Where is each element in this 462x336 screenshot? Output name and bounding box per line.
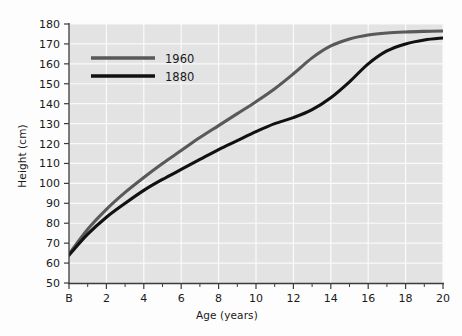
y-tick-label: 50 [46,277,60,290]
y-tick-label: 120 [39,138,60,151]
x-axis-ticks [69,283,443,289]
x-tick-label: 16 [361,292,375,305]
y-tick-label: 110 [39,157,60,170]
y-tick-label: 140 [39,98,60,111]
x-axis-title: Age (years) [196,309,258,321]
x-tick-label: 18 [399,292,413,305]
y-tick-label: 130 [39,118,60,131]
y-tick-label: 150 [39,78,60,91]
y-tick-label: 160 [39,58,60,71]
chart-canvas: 5060708090100110120130140150160170180 B2… [0,0,462,336]
y-axis-tick-labels: 5060708090100110120130140150160170180 [39,18,60,290]
x-tick-label: 20 [436,292,450,305]
x-tick-label: B [65,292,73,305]
y-tick-label: 60 [46,257,60,270]
y-tick-label: 80 [46,217,60,230]
y-tick-label: 180 [39,18,60,31]
y-tick-label: 70 [46,237,60,250]
y-tick-label: 90 [46,197,60,210]
legend-label-1880: 1880 [165,70,194,84]
x-tick-label: 10 [249,292,263,305]
x-tick-label: 8 [215,292,222,305]
x-tick-label: 12 [286,292,300,305]
y-tick-label: 100 [39,177,60,190]
x-axis-tick-labels: B2468101214161820 [65,292,450,305]
x-tick-label: 2 [103,292,110,305]
growth-chart: 5060708090100110120130140150160170180 B2… [0,0,462,336]
x-tick-label: 14 [324,292,338,305]
x-tick-label: 6 [178,292,185,305]
y-tick-label: 170 [39,38,60,51]
x-tick-label: 4 [140,292,147,305]
y-axis-title: Height (cm) [16,111,28,201]
legend-label-1960: 1960 [165,52,194,66]
y-axis-ticks [64,24,69,283]
